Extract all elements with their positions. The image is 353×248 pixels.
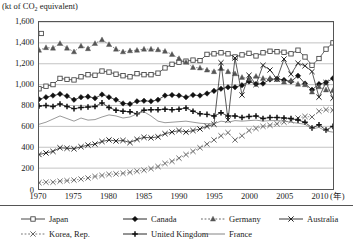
data-point-marker [148,107,154,113]
legend-item-label: Canada [151,213,177,225]
data-point-marker [121,74,125,78]
data-point-marker [295,117,301,123]
series-united-kingdom [39,100,333,133]
legend-item-united-kingdom[interactable]: United Kingdom [122,227,208,241]
data-point-marker [79,75,83,79]
data-point-marker [128,75,132,79]
data-point-marker [260,76,265,81]
data-point-marker [107,70,111,74]
data-point-marker [99,139,104,144]
data-point-marker [169,107,175,113]
data-point-marker [169,92,175,98]
data-point-marker [99,92,105,98]
data-point-marker [169,52,174,57]
legend-item-japan[interactable]: Japan [20,212,68,226]
data-point-marker [85,104,91,110]
data-point-marker [330,96,333,101]
data-point-marker [51,82,55,86]
legend-row-2: Korea, Rep.United KingdomFrance [0,227,353,241]
data-point-marker [149,73,153,77]
data-point-marker [254,54,258,58]
data-point-marker [39,96,42,102]
data-point-marker [253,74,258,79]
data-point-marker [155,97,161,103]
data-point-marker [289,52,293,56]
data-point-marker [225,130,230,135]
legend-item-korea-rep[interactable]: Korea, Rep. [20,227,90,241]
plot-area [38,21,334,190]
data-point-marker [302,114,307,119]
y-tick-label: 200 [0,164,34,173]
data-point-marker [148,46,153,51]
data-point-marker [113,97,119,103]
data-point-marker [204,112,210,118]
data-point-marker [309,114,314,119]
data-point-marker [148,99,154,105]
data-point-marker [163,66,167,70]
series-line [39,112,333,132]
y-axis-unit-tail: equivalent) [38,1,78,11]
data-point-marker [260,81,266,87]
data-point-marker [309,69,314,74]
data-point-marker [132,231,138,237]
data-point-marker [225,84,231,90]
data-point-marker [232,113,238,119]
legend-item-australia[interactable]: Australia [278,212,338,226]
data-point-marker [190,92,196,98]
data-point-marker [170,62,174,66]
data-point-marker [134,99,140,105]
data-point-marker [253,113,259,119]
data-point-marker [232,137,237,142]
legend-item-france[interactable]: France [200,227,252,241]
legend-item-canada[interactable]: Canada [122,212,177,226]
y-tick-label: 400 [0,143,34,152]
data-point-marker [99,100,105,106]
data-point-marker [212,52,216,56]
data-point-marker [50,104,56,110]
y-tick-label: 600 [0,122,34,131]
legend-marker-icon [20,213,46,225]
data-point-marker [176,128,181,133]
data-point-marker [78,177,83,182]
data-point-marker [141,98,147,104]
y-axis-unit-head: (kt of CO [2,1,35,11]
data-point-marker [197,65,202,70]
data-point-marker [268,49,272,53]
data-point-marker [198,58,202,62]
data-point-marker [191,58,195,62]
data-point-marker [239,115,245,121]
data-point-marker [39,87,41,91]
data-point-marker [282,50,286,54]
legend-item-label: France [229,228,252,240]
data-point-marker [113,46,118,51]
legend-marker-icon [200,213,226,225]
data-point-marker [330,76,333,82]
data-point-marker [204,67,209,72]
data-point-marker [156,71,160,75]
legend-marker-icon [122,213,148,225]
chart-page: (kt of CO2 equivalent) 02004006008001,00… [0,0,353,248]
data-point-marker [330,124,333,130]
data-point-marker [43,45,48,50]
data-point-marker [71,97,77,103]
legend-row-1: JapanCanadaGermanyAustralia [0,212,353,226]
legend-item-label: Australia [307,213,338,225]
data-point-marker [274,115,280,121]
legend-item-germany[interactable]: Germany [200,212,261,226]
data-point-marker [148,166,153,171]
data-point-marker [197,126,202,131]
data-point-marker [127,140,132,145]
data-point-marker [64,104,70,110]
y-axis-unit-subscript: 2 [35,6,38,12]
data-point-marker [30,231,35,236]
data-point-marker [78,144,83,149]
data-point-marker [190,65,195,70]
data-point-marker [317,56,321,60]
data-point-marker [64,45,69,50]
data-point-marker [183,94,189,100]
data-point-marker [210,216,215,221]
data-point-marker [141,46,146,51]
data-point-marker [275,50,279,54]
data-point-marker [218,66,223,71]
y-tick-label: 1,400 [0,38,34,47]
